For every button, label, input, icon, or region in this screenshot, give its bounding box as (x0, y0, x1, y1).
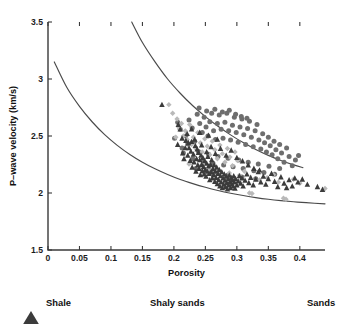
data-point-sands (296, 153, 301, 158)
data-point-sands (202, 115, 207, 120)
data-point-shale (275, 184, 281, 189)
data-point-shale (263, 181, 269, 186)
data-point-sands (221, 136, 226, 141)
x-tick-label-8: 0.4 (294, 253, 306, 263)
data-point-shale (278, 174, 284, 179)
x-tick-label-5: 0.25 (197, 253, 214, 263)
data-point-shale (300, 176, 306, 181)
data-point-sands (220, 110, 225, 115)
x-tick-label-6: 0.3 (231, 253, 243, 263)
data-point-sands (233, 112, 238, 117)
data-point-sands (256, 161, 261, 166)
shale-triangle-icon (22, 294, 39, 311)
data-point-sands (290, 163, 295, 168)
legend-label-sands: Sands (307, 297, 335, 308)
data-point-shaly-sands (276, 179, 281, 184)
data-point-shale (286, 177, 292, 182)
data-point-sands (219, 127, 224, 132)
data-point-sands (264, 149, 269, 154)
data-point-sands (256, 137, 261, 142)
data-point-sands (277, 142, 282, 147)
data-point-shale (159, 102, 165, 107)
x-tick-label-4: 0.2 (168, 253, 180, 263)
chart-legend: Shale Shaly sands Sands (0, 286, 355, 324)
legend-item-shaly-sands: Shaly sands (126, 294, 205, 311)
data-point-sands (258, 147, 263, 152)
y-tick-label-0: 1.5 (31, 245, 43, 255)
data-point-sands (287, 154, 292, 159)
data-point-sands (222, 120, 227, 125)
shaly-sands-diamond-icon (126, 294, 143, 311)
data-point-sands (249, 135, 254, 140)
data-point-sands (209, 111, 214, 116)
data-point-sands (251, 144, 256, 149)
x-tick-label-2: 0.1 (105, 253, 117, 263)
data-point-sands (244, 116, 249, 121)
sands-circle-icon (283, 294, 300, 311)
data-point-sands (270, 152, 275, 157)
data-point-sands (275, 156, 280, 161)
data-point-sands (236, 140, 241, 145)
data-point-shale (204, 149, 210, 154)
legend-item-shale: Shale (22, 294, 71, 311)
data-point-sands (197, 106, 202, 111)
x-axis-title: Porosity (168, 268, 206, 278)
data-point-sands (277, 166, 282, 171)
data-point-shaly-sands (166, 102, 171, 107)
y-tick-label-1: 2 (38, 188, 43, 198)
data-point-sands (268, 143, 273, 148)
data-point-shaly-sands (170, 111, 175, 116)
data-point-sands (284, 145, 289, 150)
x-tick-label-1: 0.05 (71, 253, 88, 263)
data-point-sands (212, 107, 217, 112)
data-point-sands (187, 118, 192, 123)
data-point-shale (234, 155, 240, 160)
data-point-sands (262, 140, 267, 145)
data-point-sands (245, 126, 250, 131)
plot-content: 00.050.10.150.20.250.30.350.41.522.533.5… (8, 17, 328, 278)
data-point-sands (228, 137, 233, 142)
data-point-sands (215, 121, 220, 126)
plot-area: 00.050.10.150.20.250.30.350.41.522.533.5… (0, 0, 355, 285)
data-point-shale (281, 180, 287, 185)
data-point-sands (227, 108, 232, 113)
figure-scatter-porosity-velocity: 00.050.10.150.20.250.30.350.41.522.533.5… (0, 0, 355, 324)
data-point-sands (272, 139, 277, 144)
data-point-sands (204, 108, 209, 113)
data-point-sands (273, 147, 278, 152)
data-point-shale (175, 142, 181, 147)
legend-label-shale: Shale (46, 297, 71, 308)
data-point-shaly-sands (220, 151, 225, 156)
data-point-sands (211, 128, 216, 133)
data-point-sands (260, 131, 265, 136)
data-point-shale (272, 179, 278, 184)
legend-item-sands: Sands (283, 294, 335, 311)
x-tick-label-0: 0 (46, 253, 51, 263)
data-point-sands (293, 157, 298, 162)
y-tick-label-3: 3 (38, 74, 43, 84)
data-point-sands (204, 124, 209, 129)
data-point-sands (226, 128, 231, 133)
y-tick-label-2: 2.5 (31, 131, 43, 141)
data-point-sands (279, 151, 284, 156)
data-point-sands (234, 130, 239, 135)
y-tick-label-4: 3.5 (31, 17, 43, 27)
data-point-sands (266, 135, 271, 140)
data-point-shale (315, 184, 321, 189)
data-point-shaly-sands (225, 146, 230, 151)
data-point-shale (213, 151, 219, 156)
data-point-shale (257, 167, 263, 172)
data-point-sands (238, 124, 243, 129)
x-tick-label-3: 0.15 (134, 253, 151, 263)
x-tick-label-7: 0.35 (260, 253, 277, 263)
y-axis-title: P–wave velocity (km/s) (8, 86, 18, 186)
data-point-sands (255, 122, 260, 127)
data-point-sands (282, 160, 287, 165)
data-point-sands (243, 142, 248, 147)
data-point-sands (195, 112, 200, 117)
legend-label-shaly-sands: Shaly sands (150, 297, 205, 308)
data-point-sands (239, 114, 244, 119)
data-point-sands (197, 121, 202, 126)
data-point-shale (290, 183, 296, 188)
plot-svg: 00.050.10.150.20.250.30.350.41.522.533.5… (0, 0, 355, 285)
